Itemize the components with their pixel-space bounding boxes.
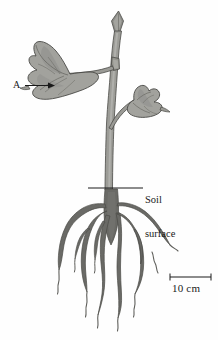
leaf-right xyxy=(127,85,170,117)
label-soil-surface: Soil surface xyxy=(145,171,175,262)
label-soil-surface-line1: Soil xyxy=(145,194,175,205)
label-soil-surface-line2: surface xyxy=(145,228,175,239)
plant-diagram-figure: A Soil surface 10 cm xyxy=(0,0,218,340)
leaf-left xyxy=(20,41,99,99)
label-scale-bar: 10 cm xyxy=(172,283,200,295)
scale-bar xyxy=(170,274,211,281)
label-callout-a: A xyxy=(13,80,20,91)
stem xyxy=(105,31,122,190)
terminal-bud-icon xyxy=(112,11,124,33)
